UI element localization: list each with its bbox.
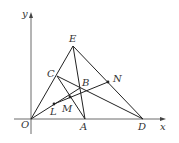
point-label-L: L bbox=[49, 106, 57, 117]
point-label-N: N bbox=[112, 73, 123, 84]
point-M-dot bbox=[69, 96, 72, 99]
x-axis-label: x bbox=[160, 121, 166, 132]
point-N-dot bbox=[107, 81, 110, 84]
point-label-O: O bbox=[21, 119, 29, 130]
point-label-C: C bbox=[47, 68, 55, 79]
point-label-D: D bbox=[137, 121, 146, 132]
point-label-E: E bbox=[68, 33, 77, 44]
geometry-figure: x y OADECBNLM bbox=[0, 0, 179, 143]
segment-LN bbox=[54, 82, 108, 104]
point-label-B: B bbox=[81, 77, 89, 88]
y-axis-arrow-icon bbox=[29, 12, 33, 18]
point-label-A: A bbox=[79, 121, 87, 132]
point-L-dot bbox=[53, 103, 56, 106]
point-label-M: M bbox=[61, 103, 73, 114]
y-axis-label: y bbox=[21, 8, 28, 19]
